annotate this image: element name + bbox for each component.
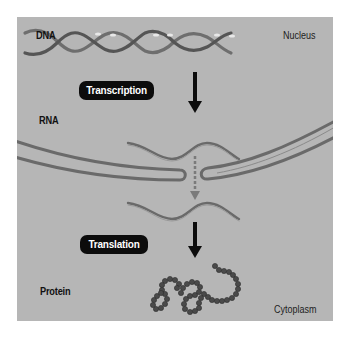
nuclear-membrane-left (17, 141, 185, 180)
cytoplasm-label: Cytoplasm (274, 304, 317, 315)
rna-label: RNA (39, 115, 58, 126)
translation-arrow-icon (188, 222, 202, 258)
transcription-badge: Transcription (79, 81, 154, 100)
diagram-graphics (17, 17, 333, 321)
nuclear-membrane-right (201, 121, 333, 179)
protein-label: Protein (40, 286, 70, 297)
dna-label: DNA (36, 30, 55, 41)
protein-chain-icon (150, 263, 240, 314)
nuclear-export-arrow-icon (190, 156, 200, 200)
dna-helix-icon (25, 30, 235, 54)
nucleus-label: Nucleus (283, 30, 316, 41)
translation-badge: Translation (80, 235, 148, 254)
diagram-panel: DNA Nucleus Transcription RNA Translatio… (17, 17, 333, 321)
transcription-arrow-icon (188, 72, 202, 113)
rna-strand-icon (128, 143, 239, 161)
mrna-strand-icon (128, 203, 239, 221)
